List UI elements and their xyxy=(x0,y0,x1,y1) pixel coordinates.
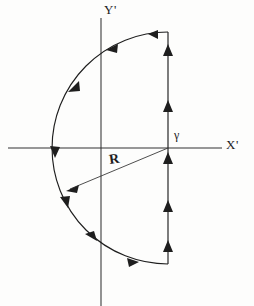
gamma-contour-label: γ xyxy=(174,128,179,143)
contour-diagram-figure: Y' X' γ R xyxy=(0,0,254,306)
vertical-arrow-head-5 xyxy=(163,240,173,252)
arc-arrow-head-6 xyxy=(85,231,97,241)
x-axis-label: X' xyxy=(226,137,239,153)
arc-arrow-head-5 xyxy=(60,196,70,208)
vertical-arrow-head-2 xyxy=(163,100,173,112)
arc-arrow-head-4 xyxy=(50,146,60,158)
arc-arrow-head-1 xyxy=(148,30,158,39)
contour-diagram-svg xyxy=(0,0,254,306)
vertical-arrow-head-4 xyxy=(163,200,173,212)
radius-label: R xyxy=(108,151,120,168)
radius-line xyxy=(70,148,168,189)
radius-arrow-head xyxy=(66,185,79,193)
y-axis-label: Y' xyxy=(104,2,117,18)
vertical-arrow-head-1 xyxy=(163,44,173,56)
vertical-arrow-head-3 xyxy=(163,152,173,164)
